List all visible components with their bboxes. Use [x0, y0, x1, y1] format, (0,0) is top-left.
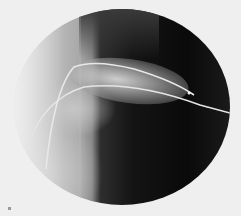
- image-frame: [0, 0, 241, 216]
- catheter-upper: [46, 63, 194, 169]
- catheter-lower: [28, 86, 230, 145]
- corner-mark: [8, 207, 11, 210]
- catheter-tip-marker: [188, 92, 191, 95]
- catheter-tip-marker-2: [206, 106, 208, 108]
- fluoroscopy-field: [14, 9, 230, 205]
- catheters-overlay: [14, 9, 230, 205]
